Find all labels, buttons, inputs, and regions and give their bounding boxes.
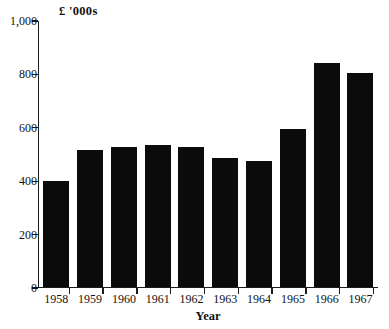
y-axis-tick-labels: 02004006008001,000 xyxy=(1,21,37,288)
bar xyxy=(347,73,373,286)
bar xyxy=(212,158,238,287)
bar xyxy=(43,181,69,287)
bar xyxy=(145,145,171,287)
bar xyxy=(178,147,204,286)
x-axis-tick-label: 1959 xyxy=(73,293,107,305)
bar xyxy=(314,63,340,287)
x-axis-tick-label: 1962 xyxy=(175,293,209,305)
y-axis-tick-label: 400 xyxy=(19,175,37,187)
bars-layer xyxy=(39,22,377,287)
y-axis-tick-label: 800 xyxy=(19,68,37,80)
x-axis-tick-label: 1967 xyxy=(344,293,378,305)
x-axis-tick-label: 1961 xyxy=(141,293,175,305)
bar xyxy=(246,161,272,287)
y-axis-tick-label: 0 xyxy=(31,282,37,294)
y-axis-tick-label: 1,000 xyxy=(10,15,37,27)
x-axis-tick-label: 1965 xyxy=(276,293,310,305)
x-axis-tick-label: 1958 xyxy=(39,293,73,305)
x-axis-tick-label: 1964 xyxy=(242,293,276,305)
x-axis-tick-label: 1966 xyxy=(310,293,344,305)
y-axis-unit-label: £ '000s xyxy=(59,5,98,18)
x-axis-tick-label: 1960 xyxy=(107,293,141,305)
y-axis-tick-label: 600 xyxy=(19,122,37,134)
y-axis-tick-label: 200 xyxy=(19,229,37,241)
plot-area: 02004006008001,000 xyxy=(38,21,378,288)
bar xyxy=(280,129,306,287)
bar xyxy=(77,150,103,286)
x-axis-tick-labels: 1958195919601961196219631964196519661967 xyxy=(38,293,378,309)
bar xyxy=(111,147,137,286)
bar-chart-figure: £ '000s 02004006008001,000 1958195919601… xyxy=(0,0,389,329)
x-axis-title: Year xyxy=(38,310,378,323)
x-axis-tick-label: 1963 xyxy=(208,293,242,305)
